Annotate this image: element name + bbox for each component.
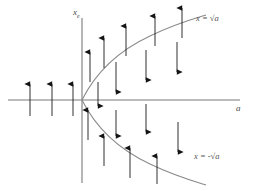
curve-upper-branch (82, 15, 206, 100)
y-axis-label-subscript: e (77, 13, 80, 19)
y-axis-label: xe (73, 8, 80, 19)
curve-label-lower: x = -√a (194, 152, 220, 161)
direction-arrows-group (30, 8, 182, 184)
curve-label-upper: x = √a (196, 14, 219, 23)
curve-lower-branch (82, 100, 206, 185)
x-axis-label: a (236, 104, 241, 113)
phase-diagram-svg (0, 0, 257, 191)
figure-canvas: xe a x = √a x = -√a (0, 0, 257, 191)
